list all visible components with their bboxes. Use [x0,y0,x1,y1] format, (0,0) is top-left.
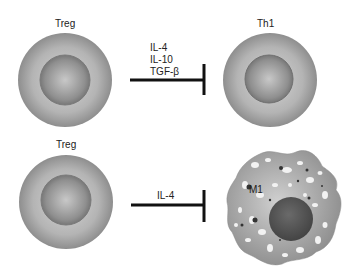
th1-cell [223,33,317,127]
treg-cell-top [18,33,112,127]
cytokine-label-il4-bottom: IL-4 [157,190,174,202]
treg-cell-bottom [19,155,113,249]
m1-label: M1 [249,184,263,196]
treg-label-top: Treg [55,18,75,30]
treg-label-bottom: Treg [56,139,76,151]
diagram-canvas [0,0,357,274]
cytokine-label-il10: IL-10 [150,54,173,66]
cytokine-label-il4-top: IL-4 [150,42,167,54]
th1-label: Th1 [257,18,274,30]
m1-macrophage-cell [227,151,341,265]
cytokine-label-tgfb: TGF-β [150,66,179,78]
